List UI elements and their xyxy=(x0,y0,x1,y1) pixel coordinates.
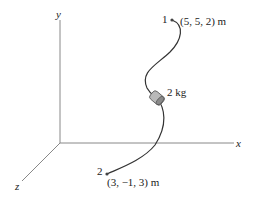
x-axis-label: x xyxy=(236,138,241,149)
z-axis-label: z xyxy=(15,181,19,192)
diagram-drawing xyxy=(0,0,254,198)
collar-mass-label: 2 kg xyxy=(167,87,186,98)
diagram-canvas: y x z 1 (5, 5, 2) m 2 kg 2 (3, −1, 3) m xyxy=(0,0,254,198)
point-1-label: 1 xyxy=(162,14,168,25)
y-axis-label: y xyxy=(56,9,61,20)
point-2-label: 2 xyxy=(97,166,103,177)
z-axis xyxy=(22,143,60,181)
point-2-coords: (3, −1, 3) m xyxy=(107,177,159,188)
collar-icon xyxy=(148,90,165,107)
point-1-dot xyxy=(170,18,173,21)
point-1-coords: (5, 5, 2) m xyxy=(180,16,226,27)
